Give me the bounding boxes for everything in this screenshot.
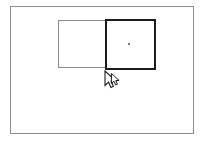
drawing-canvas[interactable] bbox=[0, 0, 205, 141]
center-point-marker bbox=[128, 43, 130, 45]
rectangle-shape-right-selected[interactable] bbox=[105, 19, 156, 70]
rectangle-shape-left[interactable] bbox=[58, 20, 106, 68]
